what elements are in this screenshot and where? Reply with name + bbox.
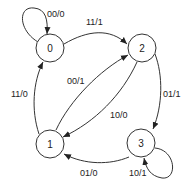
state-2: 2: [128, 34, 156, 62]
label-0-0: 00/0: [47, 9, 65, 19]
svg-text:1: 1: [47, 139, 53, 150]
edge-1-0: [34, 62, 43, 134]
label-1-2: 00/1: [67, 76, 85, 86]
edge-2-1: [63, 62, 137, 137]
diagram-svg: 0 2 1 3 00/0 11/1 11/0 00/1 10/0 01/1 01…: [0, 0, 188, 189]
state-1: 1: [36, 130, 64, 158]
state-diagram: 0 2 1 3 00/0 11/1 11/0 00/1 10/0 01/1 01…: [0, 0, 188, 189]
edge-3-1: [64, 154, 129, 163]
state-3: 3: [127, 129, 155, 157]
svg-text:2: 2: [139, 43, 145, 54]
svg-text:0: 0: [47, 43, 53, 54]
label-0-2: 11/1: [86, 17, 103, 27]
label-2-1: 10/0: [110, 110, 128, 120]
label-1-0: 11/0: [11, 89, 28, 99]
label-2-3: 01/1: [163, 89, 181, 99]
edge-2-3: [153, 54, 161, 129]
label-3-1: 01/0: [80, 168, 98, 178]
svg-text:3: 3: [138, 138, 144, 149]
state-0: 0: [36, 34, 64, 62]
edge-0-2: [64, 33, 127, 44]
label-3-3: 10/1: [129, 168, 147, 178]
